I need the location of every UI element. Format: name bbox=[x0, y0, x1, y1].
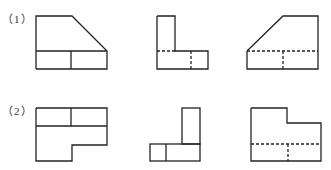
three-view-drawings bbox=[0, 0, 331, 170]
problem-2-side-view bbox=[150, 108, 200, 161]
problem-2-front-view bbox=[36, 108, 107, 161]
problem-1-front-view bbox=[36, 16, 107, 69]
problem-2-top-view bbox=[251, 108, 321, 161]
problem-1-side-view bbox=[157, 16, 208, 69]
problem-1-top-view bbox=[247, 16, 318, 69]
